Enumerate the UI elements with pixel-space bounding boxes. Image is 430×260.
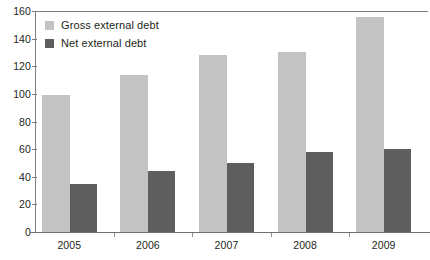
x-axis-baseline [30, 232, 430, 233]
legend-label: Net external debt [61, 37, 146, 50]
legend-item: Gross external debt [45, 17, 159, 33]
bar-net-2008 [306, 152, 333, 232]
x-axis-tick-mark [271, 233, 272, 237]
bar-chart: 020406080100120140160 200520062007200820… [0, 0, 430, 260]
bar-net-2009 [384, 149, 411, 232]
x-axis-tick-label: 2009 [349, 239, 419, 252]
bar-gross-2007 [199, 55, 227, 232]
x-axis-tick-mark [192, 233, 193, 237]
x-axis-tick-mark [114, 233, 115, 237]
legend-swatch-icon [45, 39, 54, 48]
bar-group [278, 0, 333, 232]
x-axis-tick-label: 2007 [192, 239, 262, 252]
x-axis-tick-mark [349, 233, 350, 237]
x-axis-tick-label: 2006 [113, 239, 183, 252]
bar-gross-2006 [120, 75, 148, 232]
bar-gross-2005 [42, 95, 70, 232]
x-axis-tick-label: 2005 [34, 239, 104, 252]
chart-legend: Gross external debtNet external debt [45, 17, 159, 53]
bar-group [199, 0, 254, 232]
x-axis-tick-label: 2008 [270, 239, 340, 252]
legend-swatch-icon [45, 21, 54, 30]
legend-label: Gross external debt [61, 19, 159, 32]
bar-group [356, 0, 411, 232]
bar-gross-2008 [278, 52, 306, 232]
bar-net-2006 [148, 171, 175, 232]
bar-net-2005 [70, 184, 97, 232]
bar-gross-2009 [356, 17, 384, 232]
bar-net-2007 [227, 163, 254, 232]
legend-item: Net external debt [45, 35, 159, 51]
